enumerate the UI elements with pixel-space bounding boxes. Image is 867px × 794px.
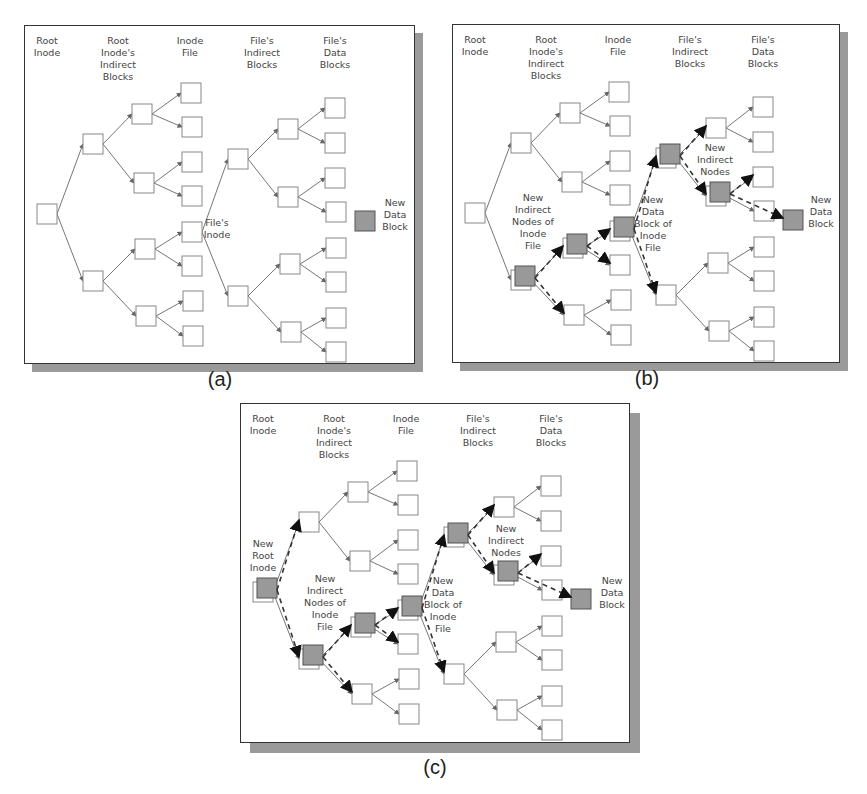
new-edge-D1-E1: [680, 126, 706, 156]
new-edge-B3-C6: [587, 246, 610, 263]
block-F7: [754, 307, 774, 327]
edge-E1-F2: [726, 128, 753, 142]
edge-B2-C3: [154, 162, 182, 183]
panel-a-svg: RootInodeRootInode'sIndirectBlocksInodeF…: [25, 26, 416, 365]
block-E1: [494, 497, 514, 517]
block-C8: [399, 704, 419, 724]
block-C5: [182, 222, 202, 242]
panel-a-caption: (a): [190, 368, 250, 391]
annotation-b-2: NewIndirectNodes: [697, 142, 733, 177]
edge-A1-B2: [319, 522, 350, 561]
block-B4: [136, 306, 156, 326]
edge-B4-C7: [584, 300, 611, 315]
block-C2: [610, 116, 630, 136]
panel-c-svg: RootInodeRootInode'sIndirectBlocksInodeF…: [241, 404, 631, 744]
block-F3: [753, 167, 773, 187]
edge-B1-C1: [368, 471, 397, 492]
edge-E3-F5: [728, 247, 754, 263]
block-F2: [325, 133, 345, 153]
annotation-c-2: NewDataBlock ofInodeFile: [424, 575, 463, 634]
new-block-E2: [498, 561, 518, 581]
block-C6: [182, 256, 202, 276]
column-header-root: RootInode: [462, 34, 489, 57]
new-block-D1: [660, 144, 680, 164]
column-header-file_data: File'sDataBlocks: [748, 34, 779, 69]
block-B1: [348, 482, 368, 502]
edge-A1-B2: [531, 143, 562, 182]
block-F1: [753, 97, 773, 117]
annotation-c-4: NewDataBlock: [599, 575, 625, 610]
edge-E1-F1: [726, 107, 753, 128]
block-F8: [542, 720, 562, 740]
block-F3: [541, 546, 561, 566]
column-header-root: RootInode: [250, 413, 277, 436]
edge-E1-F1: [514, 486, 541, 507]
block-F5: [754, 237, 774, 257]
new-block-A2: [515, 266, 535, 286]
edge-E3-F6: [516, 642, 542, 660]
block-B2: [350, 551, 370, 571]
column-header-root_ind: RootInode'sIndirectBlocks: [316, 413, 352, 460]
annotation-b-0: NewIndirectNodes ofInodeFile: [512, 192, 555, 251]
edge-B2-C3: [370, 540, 398, 561]
edge-R-A1: [485, 143, 511, 213]
block-D2: [228, 286, 248, 306]
block-F5: [542, 616, 562, 636]
block-R: [37, 204, 57, 224]
edge-A2-B4: [319, 659, 352, 694]
block-C1: [609, 82, 629, 102]
edge-B4-C7: [372, 679, 399, 694]
new-block-N: [355, 211, 375, 231]
new-edge-R-A2: [277, 590, 299, 657]
block-B3: [135, 239, 155, 259]
edge-D2-E3: [676, 263, 708, 295]
edge-B3-C5: [155, 232, 182, 249]
block-E3: [280, 254, 300, 274]
block-F6: [326, 272, 346, 292]
edge-E2-F4: [298, 197, 326, 212]
new-edge-A2-B4: [323, 657, 352, 692]
block-E1: [278, 119, 298, 139]
block-F4: [754, 201, 774, 221]
column-header-root: RootInode: [34, 35, 61, 58]
block-E2: [278, 187, 298, 207]
block-A2: [83, 271, 103, 291]
edge-E1-F1: [298, 108, 325, 129]
edge-E1-F2: [298, 129, 325, 143]
edge-B2-C3: [582, 161, 610, 182]
new-block-N: [571, 589, 591, 609]
annotation-c-0: NewRootInode: [250, 538, 277, 573]
new-edge-D1-E1: [468, 505, 494, 535]
annotation-a-0: File'sInode: [204, 217, 231, 240]
edge-B1-C2: [368, 492, 398, 505]
block-C2: [182, 117, 202, 137]
block-C7: [611, 290, 631, 310]
block-C3: [610, 151, 630, 171]
edge-R-A2: [57, 214, 83, 281]
block-C4: [398, 564, 418, 584]
new-edge-B3-C5: [375, 608, 398, 625]
block-F6: [542, 650, 562, 670]
new-block-B3: [355, 613, 375, 633]
edge-E2-F3: [298, 178, 325, 197]
edge-E4-F7: [517, 696, 542, 710]
block-F1: [325, 98, 345, 118]
new-edge-A2-B4: [535, 278, 564, 313]
block-C1: [181, 83, 201, 103]
edge-R-A2: [273, 592, 299, 659]
block-D2: [656, 285, 676, 305]
new-block-E2: [710, 182, 730, 202]
annotation-c-1: NewIndirectNodes ofInodeFile: [304, 573, 347, 632]
column-header-inode_file: InodeFile: [177, 35, 204, 58]
block-C8: [611, 325, 631, 345]
block-F4: [542, 580, 562, 600]
block-C3: [182, 152, 202, 172]
block-C4: [610, 185, 630, 205]
block-C8: [183, 326, 203, 346]
edge-E4-F8: [301, 332, 326, 352]
column-header-file_data: File'sDataBlocks: [536, 413, 567, 448]
new-block-C5: [614, 217, 634, 237]
edge-E4-F7: [729, 317, 754, 331]
edge-A1-B1: [531, 113, 560, 143]
block-B2: [562, 172, 582, 192]
